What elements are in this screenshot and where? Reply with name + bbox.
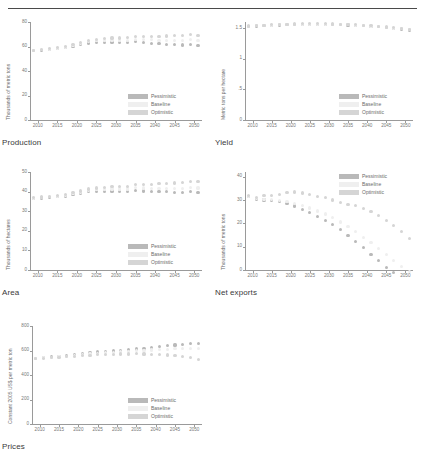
data-point [354,240,357,243]
y-tick [243,59,245,60]
data-point [73,355,76,358]
x-tick-label: 2030 [320,124,338,129]
data-point [262,194,265,197]
legend-label: Optimistic [151,414,173,419]
data-point [331,216,334,219]
legend-swatch-baseline [128,252,148,258]
data-point [157,35,160,38]
data-point [150,42,153,45]
data-point [362,246,365,249]
data-point [331,223,334,226]
data-point [408,237,411,240]
y-tick [243,247,245,248]
data-point [118,36,121,39]
x-tick-label: 2025 [301,274,319,279]
x-tick-label: 2035 [127,274,145,279]
data-point [301,208,304,211]
x-tick-label: 2045 [166,428,184,433]
figure-caption: Net exports [215,288,257,297]
data-point [339,228,342,231]
legend-item: Baseline [128,101,176,108]
x-tick-label: 2025 [87,124,105,129]
legend-item: Pessimistic [128,243,176,250]
page-header [0,0,425,10]
x-tick-label: 2040 [146,274,164,279]
legend-item: Baseline [339,101,387,108]
data-point [87,187,90,190]
legend-swatch-optimistic [128,260,148,266]
data-point [112,353,115,356]
y-tick [243,120,245,121]
data-point [354,204,357,207]
chart-legend: PessimisticBaselineOptimistic [128,397,176,421]
y-tick [30,375,32,376]
data-point [157,190,160,193]
data-point [197,342,200,345]
x-tick-label: 2045 [377,274,395,279]
data-point [64,193,67,196]
legend-label: Pessimistic [151,244,176,249]
data-point [369,24,372,27]
x-tick-label: 2015 [263,124,281,129]
data-point [189,356,192,359]
y-tick [243,200,245,201]
data-point [293,190,296,193]
data-point [278,193,281,196]
figure-caption: Production [2,138,41,147]
data-point [369,210,372,213]
legend-label: Pessimistic [362,94,387,99]
data-point [150,183,153,186]
data-point [166,344,169,347]
legend-label: Baseline [362,102,381,107]
y-tick [30,326,32,327]
y-tick-label: 30 [8,209,27,214]
chart-legend: PessimisticBaselineOptimistic [339,93,387,117]
data-point [362,24,365,27]
data-point [346,225,349,228]
data-point [165,190,168,193]
data-point [189,180,192,183]
data-point [189,342,192,345]
data-point [96,353,99,356]
data-point [142,35,145,38]
x-tick-label: 2020 [69,428,87,433]
y-axis-title: Thousands of metric tons [6,64,11,120]
data-point [285,200,288,203]
data-point [278,23,281,26]
legend-swatch-optimistic [128,414,148,420]
data-point [173,39,176,42]
data-point [150,38,153,41]
data-point [196,191,199,194]
legend-swatch-baseline [339,102,359,108]
data-point [196,180,199,183]
data-point [400,230,403,233]
y-tick-label: 1 [223,56,242,61]
data-point [181,355,184,358]
x-tick-label: 2050 [396,274,414,279]
data-point [134,189,137,192]
legend-swatch-pessimistic [128,398,148,404]
data-point [71,43,74,46]
legend-item: Optimistic [339,109,387,116]
data-point [262,24,265,27]
x-tick-label: 2010 [244,274,262,279]
y-tick-label: 800 [10,324,29,329]
data-point [377,247,380,250]
y-tick [28,192,30,193]
data-point [34,357,37,360]
data-point [157,182,160,185]
data-point [339,23,342,26]
data-point [196,39,199,42]
data-point [173,187,176,190]
chart-yield: 0.511.5201020152020202520302035204020452… [213,14,425,136]
data-point [196,34,199,37]
x-tick-label: 2015 [263,274,281,279]
data-point [181,191,184,194]
y-tick [28,172,30,173]
legend-item: Pessimistic [339,173,387,180]
data-point [324,196,327,199]
x-tick-label: 2035 [339,124,357,129]
data-point [173,343,176,346]
data-point [181,34,184,37]
data-point [346,203,349,206]
